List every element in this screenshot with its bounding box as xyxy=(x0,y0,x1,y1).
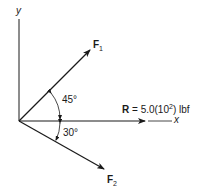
r-label: R = 5.0(102) lbf xyxy=(122,103,190,115)
y-axis-label: y xyxy=(16,6,21,16)
f2-label: F2 xyxy=(107,175,117,187)
angle-label-30: 30° xyxy=(63,128,78,138)
f1-label: F1 xyxy=(93,40,103,52)
angle-arc-45 xyxy=(51,93,60,119)
angle-label-45: 45° xyxy=(62,95,77,105)
x-axis-label: x xyxy=(174,115,179,125)
angle-arc-30 xyxy=(56,123,60,140)
force-diagram: y x F1 F2 R = 5.0(102) lbf 45° 30° xyxy=(0,0,197,193)
diagram-canvas xyxy=(0,0,197,193)
f1-vector xyxy=(19,50,90,121)
f2-vector xyxy=(19,121,104,169)
